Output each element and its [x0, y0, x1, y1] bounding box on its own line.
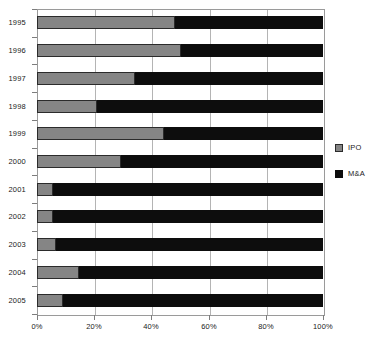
x-axis-label-60: 60% — [189, 322, 229, 331]
bar-segment-ipo-1998 — [37, 100, 97, 113]
bar-row-1996 — [37, 44, 323, 57]
bar-segment-ma-1999 — [164, 127, 323, 140]
legend-swatch-ma — [335, 170, 343, 178]
bar-segment-ipo-1999 — [37, 127, 164, 140]
bar-segment-ipo-2004 — [37, 266, 79, 279]
bar-segment-ipo-2005 — [37, 294, 63, 307]
bar-row-2004 — [37, 266, 323, 279]
legend-label-ipo: IPO — [348, 143, 362, 152]
y-axis-label-2004: 2004 — [0, 268, 26, 277]
bar-segment-ma-1996 — [181, 44, 323, 57]
bar-segment-ipo-2003 — [37, 238, 56, 251]
bar-row-2001 — [37, 183, 323, 196]
y-axis: 1995199619971998199920002001200220032004… — [0, 9, 33, 314]
legend: IPOM&A — [335, 143, 385, 195]
bars-layer — [37, 9, 323, 314]
y-axis-label-1998: 1998 — [0, 102, 26, 111]
x-axis-tick-100 — [323, 315, 324, 320]
x-axis-tick-40 — [151, 315, 152, 320]
bar-row-1999 — [37, 127, 323, 140]
x-axis-tick-20 — [94, 315, 95, 320]
stacked-bar-chart: 1995199619971998199920002001200220032004… — [0, 0, 385, 347]
x-axis-tick-60 — [209, 315, 210, 320]
x-axis-tick-80 — [266, 315, 267, 320]
x-axis: 0%20%40%60%80%100% — [37, 315, 323, 335]
bar-segment-ma-1998 — [97, 100, 323, 113]
bar-row-2005 — [37, 294, 323, 307]
bar-segment-ipo-2002 — [37, 210, 53, 223]
bar-segment-ipo-1995 — [37, 16, 175, 29]
x-axis-label-40: 40% — [131, 322, 171, 331]
bar-row-2002 — [37, 210, 323, 223]
bar-row-1997 — [37, 72, 323, 85]
y-axis-label-1999: 1999 — [0, 129, 26, 138]
y-axis-label-2001: 2001 — [0, 185, 26, 194]
legend-item-ma: M&A — [335, 169, 385, 178]
y-axis-label-2003: 2003 — [0, 240, 26, 249]
legend-label-ma: M&A — [348, 169, 365, 178]
y-axis-label-2000: 2000 — [0, 157, 26, 166]
x-axis-label-100: 100% — [303, 322, 343, 331]
x-axis-tick-0 — [37, 315, 38, 320]
y-axis-label-2002: 2002 — [0, 212, 26, 221]
bar-row-1995 — [37, 16, 323, 29]
y-axis-label-1996: 1996 — [0, 46, 26, 55]
bar-segment-ipo-1996 — [37, 44, 181, 57]
bar-segment-ma-2002 — [53, 210, 323, 223]
bar-segment-ipo-1997 — [37, 72, 135, 85]
x-axis-label-20: 20% — [74, 322, 114, 331]
x-axis-label-80: 80% — [246, 322, 286, 331]
bar-row-2003 — [37, 238, 323, 251]
bar-segment-ma-2000 — [121, 155, 323, 168]
bar-row-2000 — [37, 155, 323, 168]
bar-segment-ma-2005 — [63, 294, 323, 307]
bar-segment-ma-2004 — [79, 266, 323, 279]
y-axis-label-2005: 2005 — [0, 296, 26, 305]
legend-item-ipo: IPO — [335, 143, 385, 152]
bar-segment-ma-1997 — [135, 72, 323, 85]
legend-swatch-ipo — [335, 144, 343, 152]
x-axis-label-0: 0% — [17, 322, 57, 331]
bar-segment-ma-2001 — [53, 183, 323, 196]
bar-segment-ipo-2000 — [37, 155, 121, 168]
y-axis-label-1995: 1995 — [0, 18, 26, 27]
bar-row-1998 — [37, 100, 323, 113]
bar-segment-ma-2003 — [56, 238, 323, 251]
bar-segment-ipo-2001 — [37, 183, 53, 196]
y-axis-label-1997: 1997 — [0, 74, 26, 83]
bar-segment-ma-1995 — [175, 16, 323, 29]
